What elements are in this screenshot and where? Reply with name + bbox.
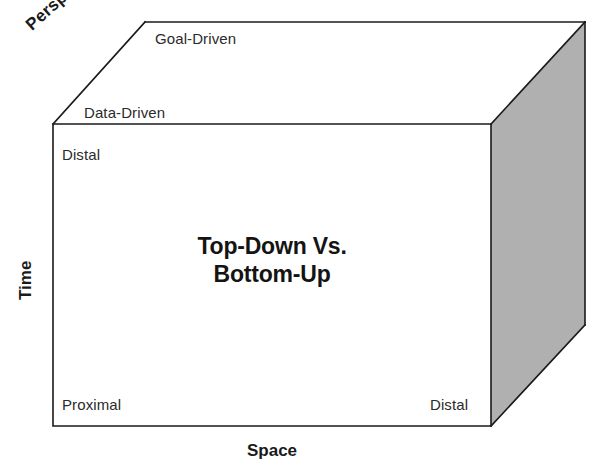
time-level-distal: Distal xyxy=(62,146,100,163)
depth-level-goal-driven: Goal-Driven xyxy=(155,30,236,47)
diagram-title-line-1: Top-Down Vs. xyxy=(53,232,491,260)
axis-label-time: Time xyxy=(16,261,36,300)
space-level-proximal: Proximal xyxy=(62,396,121,413)
space-level-distal: Distal xyxy=(430,396,468,413)
axis-label-space: Space xyxy=(53,441,491,461)
depth-level-data-driven: Data-Driven xyxy=(84,104,165,121)
diagram-title-line-2: Bottom-Up xyxy=(53,260,491,288)
diagram-canvas: Perspective Goal-Driven Data-Driven Dist… xyxy=(0,0,613,476)
diagram-title: Top-Down Vs. Bottom-Up xyxy=(53,232,491,288)
